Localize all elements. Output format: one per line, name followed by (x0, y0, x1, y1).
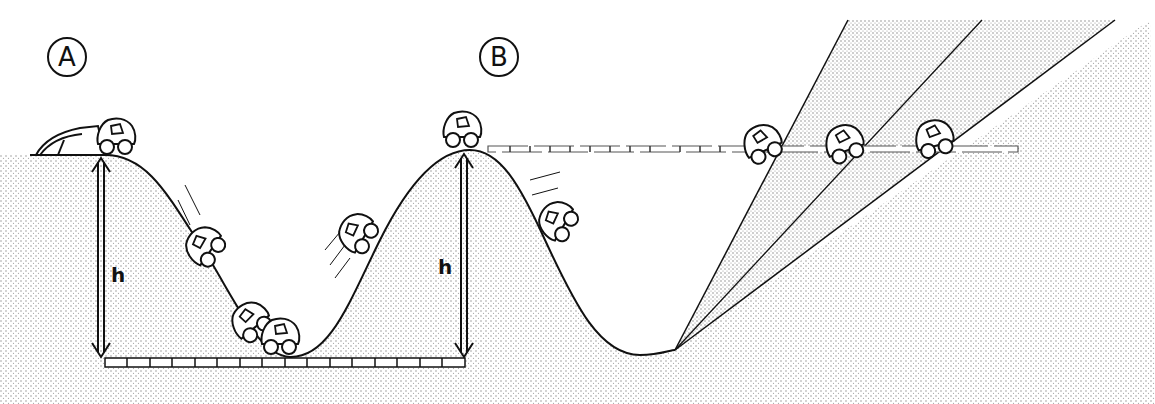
panel-label-b: B (480, 38, 518, 76)
height-label-right: h (438, 255, 452, 279)
tow-truck-start-a (36, 118, 135, 155)
panel-label-a: A (48, 38, 86, 76)
motion-lines-3 (530, 172, 560, 195)
svg-text:B: B (490, 42, 508, 72)
svg-text:A: A (58, 42, 76, 72)
car-valley-bottom (261, 318, 299, 354)
height-label-left: h (111, 263, 125, 287)
baseline-scale-bar (105, 358, 465, 367)
diagram-canvas: h h A B (0, 0, 1155, 404)
car-top-b (443, 111, 481, 147)
